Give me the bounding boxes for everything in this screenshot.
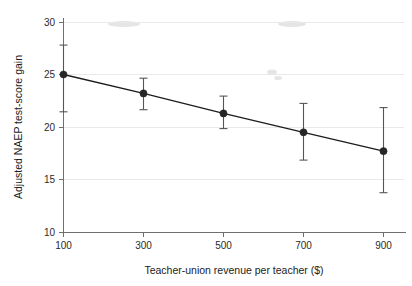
error-bars bbox=[60, 45, 388, 193]
y-axis-title: Adjusted NAEP test-score gain bbox=[12, 55, 24, 199]
y-tick-labels: 30 25 20 15 10 bbox=[44, 17, 56, 238]
y-tick-label: 25 bbox=[44, 69, 56, 80]
x-tick-label: 100 bbox=[55, 240, 72, 251]
x-tick-labels: 100 300 500 700 900 bbox=[55, 240, 392, 251]
data-markers bbox=[60, 71, 387, 155]
chart-figure: 30 25 20 15 10 100 300 500 700 900 bbox=[0, 0, 412, 286]
x-axis-title: Teacher-union revenue per teacher ($) bbox=[144, 264, 323, 276]
scan-artifacts bbox=[108, 21, 306, 80]
data-point bbox=[60, 71, 67, 78]
x-tick-label: 300 bbox=[135, 240, 152, 251]
data-point bbox=[300, 129, 307, 136]
x-tick-label: 700 bbox=[295, 240, 312, 251]
y-tick-marks bbox=[59, 23, 64, 233]
y-tick-label: 30 bbox=[44, 17, 56, 28]
data-point bbox=[140, 90, 147, 97]
y-tick-label: 10 bbox=[44, 227, 56, 238]
x-tick-label: 500 bbox=[215, 240, 232, 251]
y-tick-label: 15 bbox=[44, 174, 56, 185]
scatter-line-chart: 30 25 20 15 10 100 300 500 700 900 bbox=[0, 0, 412, 286]
data-point bbox=[380, 148, 387, 155]
axis-frame bbox=[64, 18, 407, 233]
y-tick-label: 20 bbox=[44, 122, 56, 133]
grid-lines bbox=[64, 23, 405, 180]
data-point bbox=[220, 110, 227, 117]
x-tick-label: 900 bbox=[375, 240, 392, 251]
x-tick-marks bbox=[64, 233, 384, 238]
